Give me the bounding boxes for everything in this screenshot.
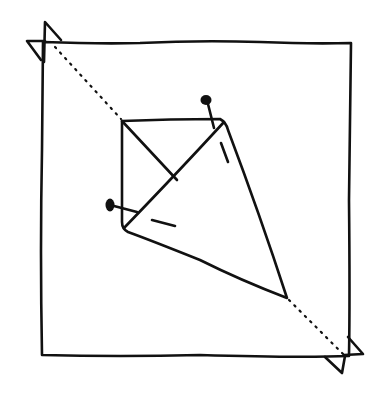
origami-diagram: [0, 0, 380, 394]
fold-dash-bottom: [152, 220, 175, 226]
fold-dash-right: [221, 143, 228, 162]
pin-head-left: [106, 199, 115, 212]
corner-flap-bottom-right-b: [325, 356, 345, 373]
outer-square: [41, 41, 351, 357]
fold-line-lower: [289, 300, 344, 355]
fold-line-upper: [55, 47, 121, 119]
kite-inner-diagonal-a: [122, 121, 177, 180]
pin-shaft-top: [208, 104, 214, 128]
pin-head-top: [201, 95, 212, 105]
corner-flap-bottom-right-a: [344, 337, 363, 355]
pin-shaft-left: [114, 206, 137, 212]
